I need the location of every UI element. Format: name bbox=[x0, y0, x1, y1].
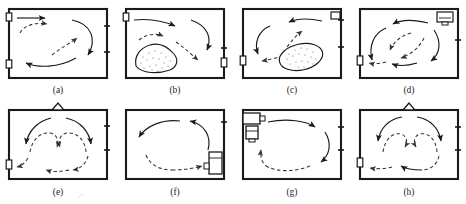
panel-caption-h: (h) bbox=[403, 187, 414, 198]
panel-caption-e: (e) bbox=[53, 187, 64, 198]
panel-caption-f: (f) bbox=[170, 187, 180, 198]
panel-caption-c: (c) bbox=[287, 85, 298, 96]
panel-caption-g: (g) bbox=[286, 187, 297, 198]
panel-caption-d: (d) bbox=[403, 85, 414, 96]
panel-caption-a: (a) bbox=[53, 85, 64, 96]
airflow-pattern-figure: (a) (b) bbox=[0, 0, 466, 204]
figure-background bbox=[0, 0, 466, 204]
panel-caption-b: (b) bbox=[169, 85, 180, 96]
